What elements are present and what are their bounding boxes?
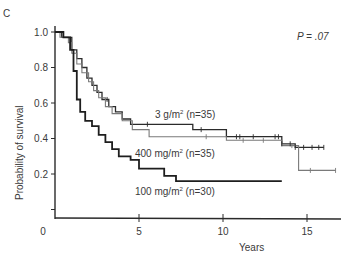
y-tick-label: 0.6 — [34, 98, 48, 109]
series-label-100mg: 100 mg/m2 (n=30) — [135, 186, 215, 197]
x-axis — [55, 218, 341, 219]
series-label-400mg: 400 mg/m2 (n=35) — [135, 148, 215, 159]
y-axis-label: Probability of survival — [14, 106, 25, 200]
x-tick-label: 5 — [136, 226, 142, 237]
y-tick-label: 1.0 — [34, 27, 48, 38]
x-axis-label: Years — [239, 242, 264, 253]
panel-label: C — [3, 8, 10, 19]
y-tick-label: 0.2 — [34, 169, 48, 180]
p-value-annotation: P = .07 — [297, 31, 329, 42]
x-tick-label: 0 — [40, 226, 46, 237]
x-tick-label: 10 — [217, 226, 229, 237]
y-tick-label: 0.4 — [34, 133, 48, 144]
series-label-3g: 3 g/m2 (n=35) — [155, 109, 215, 120]
survival-chart: C P = .07 0.20.40.60.81.0 051015 Years P… — [0, 0, 358, 273]
y-tick-label: 0.8 — [34, 62, 48, 73]
x-tick-label: 15 — [301, 226, 313, 237]
y-axis-ticks: 0.20.40.60.81.0 — [34, 27, 55, 210]
km-curve-0 — [55, 32, 324, 147]
